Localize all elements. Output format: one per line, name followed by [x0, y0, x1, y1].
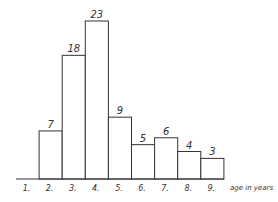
bar-4	[85, 21, 108, 179]
bar-value-label: 18	[67, 43, 80, 54]
x-tick-label: 7.	[161, 184, 169, 193]
x-tick-label: 3.	[69, 184, 77, 193]
x-tick-label: 1.	[23, 184, 31, 193]
x-tick-label: 6.	[138, 184, 146, 193]
bar-6	[132, 145, 155, 179]
x-tick-label: 8.	[184, 184, 192, 193]
x-tick-label: 2.	[46, 184, 54, 193]
bars-group: 7182395643	[39, 9, 224, 179]
bar-7	[155, 138, 178, 179]
bar-value-label: 6	[163, 126, 169, 137]
bar-8	[178, 152, 201, 179]
bar-3	[62, 55, 85, 179]
bar-value-label: 7	[47, 119, 54, 130]
bar-9	[201, 158, 224, 179]
bar-value-label: 23	[90, 9, 103, 20]
histogram-chart: 7182395643 1.2.3.4.5.6.7.8.9. age in yea…	[0, 0, 278, 202]
bar-value-label: 3	[209, 146, 215, 157]
x-tick-label: 5.	[115, 184, 123, 193]
bar-2	[39, 131, 62, 179]
x-axis-label: age in years	[230, 184, 273, 192]
bar-value-label: 4	[186, 140, 192, 151]
x-tick-label: 4.	[92, 184, 100, 193]
bar-value-label: 5	[140, 133, 146, 144]
x-tick-label: 9.	[208, 184, 216, 193]
x-tick-labels: 1.2.3.4.5.6.7.8.9.	[23, 184, 215, 193]
bar-5	[108, 117, 131, 179]
bar-value-label: 9	[117, 105, 123, 116]
